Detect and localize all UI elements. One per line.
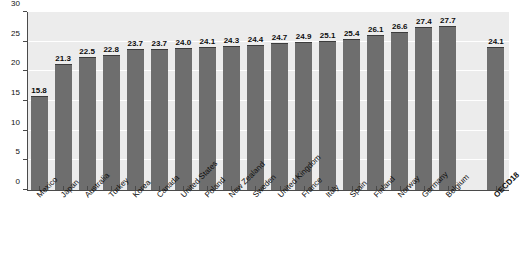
bar-value-label: 23.7	[127, 39, 143, 48]
bar-group[interactable]: 24.0	[175, 34, 192, 190]
bar[interactable]	[271, 43, 288, 190]
bar-value-label: 27.4	[416, 17, 432, 26]
bar-value-label: 24.1	[200, 37, 216, 46]
bar-value-label: 26.6	[392, 22, 408, 31]
bar[interactable]	[367, 35, 384, 190]
bar-value-label: 24.0	[176, 38, 192, 47]
bar-group[interactable]: 21.3	[55, 50, 72, 190]
bar-group[interactable]: 23.7	[127, 35, 144, 190]
bar-value-label: 27.7	[440, 16, 456, 25]
y-axis-tick-label: 25	[11, 30, 20, 38]
bar-value-label: 24.3	[224, 36, 240, 45]
bar-group[interactable]: 24.1	[487, 33, 504, 190]
bar[interactable]	[31, 96, 48, 190]
bar-group[interactable]: 22.8	[103, 41, 120, 190]
bar[interactable]	[151, 49, 168, 190]
bar-value-label: 24.4	[248, 35, 264, 44]
bar[interactable]	[415, 27, 432, 190]
bar-value-label: 25.1	[320, 31, 336, 40]
bar-group[interactable]: 26.1	[367, 21, 384, 190]
bar[interactable]	[175, 48, 192, 190]
bar-value-label: 24.1	[488, 37, 504, 46]
bar[interactable]	[55, 64, 72, 190]
bar[interactable]	[223, 46, 240, 190]
bars-layer: 15.821.322.522.823.723.724.024.124.324.4…	[27, 12, 508, 191]
bar-value-label: 15.8	[31, 86, 47, 95]
bar-group[interactable]: 15.8	[31, 82, 48, 190]
x-axis-labels: MexicoJapanAustraliaTurkeyKoreaCanadaUni…	[27, 191, 508, 263]
bar[interactable]	[79, 57, 96, 191]
bar-group[interactable]: 24.3	[223, 32, 240, 190]
bar-value-label: 25.4	[344, 29, 360, 38]
bar[interactable]	[127, 49, 144, 190]
y-axis-tick-label: 15	[11, 89, 20, 97]
bar-group[interactable]: 23.7	[151, 35, 168, 190]
bar-group[interactable]: 27.7	[439, 12, 456, 190]
bar-group[interactable]: 24.7	[271, 29, 288, 190]
y-axis-tick-label: 10	[11, 119, 20, 127]
bar[interactable]	[487, 47, 504, 190]
bar-value-label: 24.9	[296, 32, 312, 41]
bar-value-label: 24.7	[272, 33, 288, 42]
bar-value-label: 21.3	[55, 54, 71, 63]
y-axis-tick-label: 20	[11, 59, 20, 67]
bar-group[interactable]: 27.4	[415, 13, 432, 190]
bar-value-label: 22.5	[79, 47, 95, 56]
bar[interactable]	[391, 32, 408, 190]
bar[interactable]	[103, 55, 120, 190]
bar-group[interactable]: 22.5	[79, 43, 96, 191]
bar-group[interactable]: 26.6	[391, 18, 408, 190]
bar-value-label: 22.8	[103, 45, 119, 54]
bar-value-label: 23.7	[151, 39, 167, 48]
y-axis-tick-label: 30	[11, 0, 20, 8]
y-axis-tick-label: 0	[16, 178, 20, 186]
bar-group[interactable]: 25.4	[343, 25, 360, 190]
bar-value-label: 26.1	[368, 25, 384, 34]
y-axis-tick-label: 5	[16, 148, 20, 156]
bar[interactable]	[343, 39, 360, 190]
bar[interactable]	[319, 41, 336, 190]
bar[interactable]	[439, 26, 456, 190]
y-axis: 051015202530	[0, 12, 27, 191]
bar-group[interactable]: 25.1	[319, 27, 336, 190]
